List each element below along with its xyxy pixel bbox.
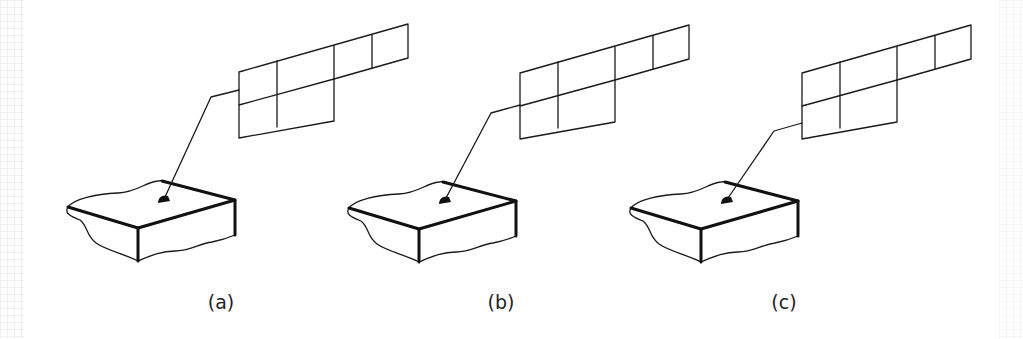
panel-label-c: (c) bbox=[771, 291, 796, 313]
panel-label-a: (a) bbox=[208, 291, 234, 313]
panel-a bbox=[67, 24, 408, 261]
block-icon bbox=[630, 182, 798, 262]
panel-label-b: (b) bbox=[488, 291, 515, 313]
block-icon bbox=[67, 181, 235, 261]
cell-grid bbox=[520, 25, 689, 139]
cell-grid bbox=[239, 24, 408, 138]
diagram-canvas: (a) (b) (c) bbox=[0, 0, 1023, 339]
block-icon bbox=[348, 182, 516, 262]
cell-grid bbox=[802, 25, 971, 139]
leader-line bbox=[446, 105, 520, 198]
leader-line bbox=[165, 90, 239, 197]
panel-c bbox=[630, 25, 971, 262]
